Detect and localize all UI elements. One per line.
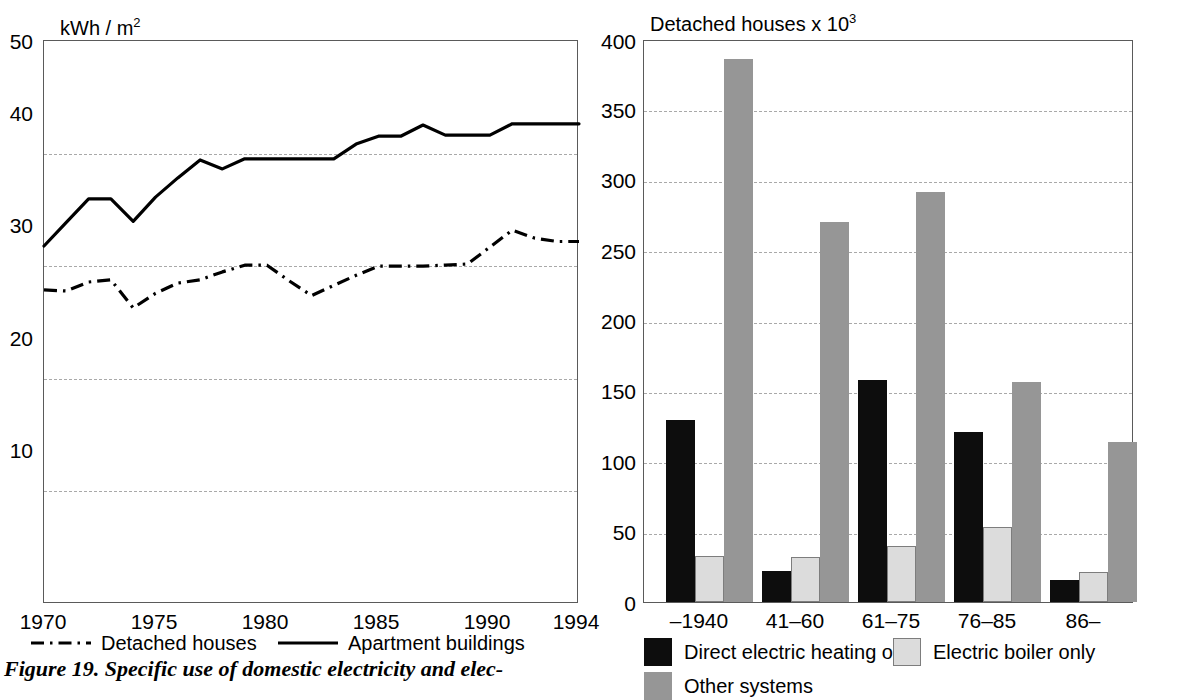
legend-label-electric-boiler: Electric boiler only <box>933 642 1095 662</box>
figure-caption: Figure 19. Specific use of domestic elec… <box>4 656 564 682</box>
right-ytick-200: 200 <box>600 311 636 332</box>
left-ytick-50: 50 <box>0 31 33 52</box>
left-chart-axis-title: kWh / m2 <box>60 18 141 38</box>
bar-41-60-boiler <box>791 557 820 602</box>
left-ytick-20: 20 <box>0 328 33 349</box>
right-xtick-1940: –1940 <box>664 610 734 631</box>
bar-chart-panel: Detached houses x 103 <box>600 0 1177 698</box>
legend-item-electric-boiler: Electric boiler only <box>893 638 1095 666</box>
left-xtick-1980: 1980 <box>229 611 301 632</box>
legend-label-detached-houses: Detached houses <box>101 633 257 653</box>
light-gray-swatch-icon <box>893 638 921 666</box>
bar-1940-direct <box>666 420 695 602</box>
left-xtick-1975: 1975 <box>118 611 190 632</box>
right-ytick-50: 50 <box>600 522 636 543</box>
bar-76-85-other <box>1012 382 1041 602</box>
left-ytick-30: 30 <box>0 215 33 236</box>
gridline-y-300 <box>644 182 1132 183</box>
gray-swatch-icon <box>644 672 672 700</box>
legend-label-other-systems: Other systems <box>684 676 813 696</box>
legend-item-detached-houses: Detached houses <box>30 633 257 653</box>
line-plot-area <box>43 40 578 603</box>
bar-61-75-other <box>916 192 945 602</box>
gridline-y-250 <box>644 252 1132 253</box>
right-ytick-250: 250 <box>600 241 636 262</box>
left-xtick-1985: 1985 <box>340 611 412 632</box>
line-series-svg <box>44 41 579 604</box>
left-axis-title-exponent: 2 <box>133 15 140 30</box>
bar-76-85-direct <box>954 432 983 602</box>
right-xtick-61-75: 61–75 <box>856 610 926 631</box>
right-ytick-400: 400 <box>600 31 636 52</box>
right-ytick-300: 300 <box>600 170 636 191</box>
series-detached-houses <box>44 230 579 308</box>
right-axis-title-exponent: 3 <box>849 11 856 26</box>
gridline-y-100 <box>644 463 1132 464</box>
legend-item-apartment-buildings: Apartment buildings <box>277 633 525 653</box>
left-ytick-10: 10 <box>0 440 33 461</box>
bar-41-60-direct <box>762 571 791 602</box>
right-xtick-76-85: 76–85 <box>952 610 1022 631</box>
bar-41-60-other <box>820 222 849 602</box>
left-xtick-1990: 1990 <box>451 611 523 632</box>
bar-86-boiler <box>1079 572 1108 602</box>
bar-86-other <box>1108 442 1137 603</box>
right-xtick-86: 86– <box>1048 610 1118 631</box>
legend-label-direct-electric-heating: Direct electric heating only <box>684 642 919 662</box>
bar-86-direct <box>1050 580 1079 603</box>
right-ytick-350: 350 <box>600 100 636 121</box>
line-chart-panel: kWh / m2 10 20 30 40 50 1970 1975 1980 1… <box>0 0 600 698</box>
dash-dot-line-icon <box>30 636 92 650</box>
gridline-y-50 <box>644 534 1132 535</box>
bar-61-75-direct <box>858 380 887 602</box>
solid-line-icon <box>277 636 339 650</box>
left-axis-title-text: kWh / m <box>60 17 133 39</box>
gridline-y-200 <box>644 323 1132 324</box>
series-apartment-buildings <box>44 124 579 246</box>
legend-item-other-systems: Other systems <box>644 672 813 700</box>
right-ytick-150: 150 <box>600 381 636 402</box>
legend-label-apartment-buildings: Apartment buildings <box>348 633 525 653</box>
bar-1940-other <box>724 59 753 602</box>
bar-plot-area <box>643 40 1133 603</box>
bar-1940-boiler <box>695 556 724 603</box>
gridline-y-150 <box>644 393 1132 394</box>
right-chart-axis-title: Detached houses x 103 <box>650 14 856 34</box>
right-ytick-0: 0 <box>600 593 636 614</box>
black-swatch-icon <box>644 638 672 666</box>
right-xtick-41-60: 41–60 <box>760 610 830 631</box>
left-ytick-40: 40 <box>0 103 33 124</box>
right-ytick-100: 100 <box>600 452 636 473</box>
bar-61-75-boiler <box>887 546 916 602</box>
left-xtick-1970: 1970 <box>7 611 79 632</box>
legend-item-direct-electric-heating: Direct electric heating only <box>644 638 919 666</box>
right-axis-title-text: Detached houses x 10 <box>650 13 849 35</box>
bar-76-85-boiler <box>983 527 1012 602</box>
gridline-y-350 <box>644 111 1132 112</box>
